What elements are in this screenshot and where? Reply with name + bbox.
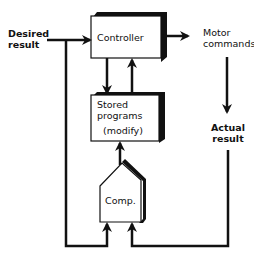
motor-commands-line1: Motor	[203, 27, 254, 38]
arrow-actual-to-comp	[132, 150, 228, 246]
feedback-diagram: Desired result Controller Stored program…	[0, 0, 254, 258]
desired-result-label: Desired result	[8, 28, 49, 50]
desired-result-line2: result	[8, 39, 49, 50]
stored-programs-line1: Stored	[97, 99, 157, 110]
motor-commands-line2: commands	[203, 38, 254, 49]
motor-commands-label: Motor commands	[203, 27, 254, 49]
actual-result-line2: result	[208, 133, 248, 144]
actual-result-label: Actual result	[208, 122, 248, 144]
controller-label: Controller	[97, 32, 144, 43]
actual-result-line1: Actual	[208, 122, 248, 133]
comparator-label: Comp.	[105, 195, 136, 206]
desired-result-line1: Desired	[8, 28, 49, 39]
stored-programs-label: Stored programs (modify)	[97, 99, 157, 136]
stored-programs-line3: (modify)	[97, 125, 157, 136]
stored-programs-line2: programs	[97, 110, 157, 121]
